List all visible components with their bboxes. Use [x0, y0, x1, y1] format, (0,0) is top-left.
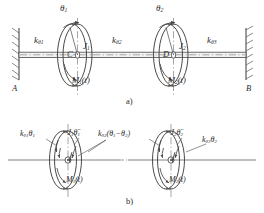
k-theta-1-label: kθ1 [34, 36, 44, 46]
panel-label-a: a) [126, 97, 133, 106]
wall-label-a: A [12, 84, 17, 93]
shaft-segment-2 [79, 52, 175, 57]
theta-1-label: θ1 [60, 4, 67, 14]
fbd-spring-torque-left-label: kθ1θ1 [20, 130, 35, 139]
fbd-torque-m1-label: M1(t) [66, 176, 83, 185]
panel-label-b: b) [126, 197, 133, 206]
disk-center-d-label: D [163, 50, 169, 59]
torque-m2-label: M2(t) [168, 76, 186, 85]
torsional-system-figure [0, 0, 264, 213]
panel-a [12, 18, 253, 96]
fbd-spring-torque-right-label: kθ3θ2 [202, 136, 217, 145]
k-theta-3-label: kθ3 [207, 36, 217, 46]
wall-right [246, 26, 253, 80]
fbd-inertia-torque-1-label: −J1θ̈1 [62, 129, 80, 138]
inertia-j2-label: J2 [179, 42, 186, 52]
shaft-segment-3 [175, 52, 246, 57]
torque-m1-label: M1(t) [72, 76, 90, 85]
theta-2-label: θ2 [156, 4, 163, 14]
inertia-j1-label: J1 [83, 42, 90, 52]
wall-label-b: B [246, 84, 251, 93]
fbd-torque-m2-label: M2(t) [169, 176, 186, 185]
disk-center-c-label: C [67, 50, 73, 59]
wall-left [12, 28, 19, 80]
k-theta-2-label: kθ2 [112, 36, 122, 46]
fbd-coupling-torque-label: kθ2(θ1−θ2) [98, 130, 130, 139]
panel-b [8, 124, 256, 198]
fbd-inertia-torque-2-label: −J2θ̈2 [165, 129, 183, 138]
